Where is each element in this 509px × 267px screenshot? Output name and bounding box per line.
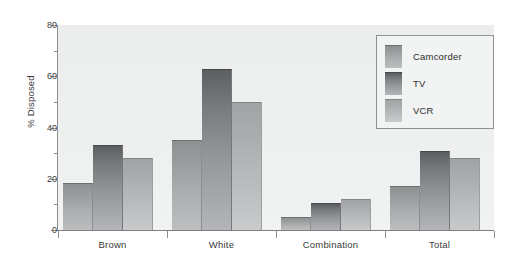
legend-swatch bbox=[385, 72, 402, 95]
y-tick-label: 20 bbox=[31, 174, 57, 184]
bar bbox=[281, 217, 311, 230]
legend-item: VCR bbox=[385, 98, 434, 122]
bar bbox=[450, 158, 480, 230]
y-tick-label: 60 bbox=[31, 71, 57, 81]
x-axis-category-label: Combination bbox=[303, 239, 359, 250]
x-axis-category-label: Brown bbox=[99, 239, 127, 250]
legend-label: TV bbox=[413, 78, 426, 89]
legend-swatch bbox=[385, 45, 402, 68]
bar bbox=[390, 186, 420, 230]
bar bbox=[311, 203, 341, 230]
legend-item: TV bbox=[385, 71, 426, 95]
bar bbox=[341, 199, 371, 230]
bar bbox=[93, 145, 123, 230]
legend: CamcorderTVVCR bbox=[376, 35, 494, 129]
x-tick bbox=[58, 231, 59, 238]
legend-label: VCR bbox=[413, 105, 434, 116]
legend-item: Camcorder bbox=[385, 44, 462, 68]
y-tick-label: 40 bbox=[31, 123, 57, 133]
y-axis-ticks: 020406080 bbox=[0, 0, 57, 267]
x-tick bbox=[494, 231, 495, 238]
bar bbox=[420, 151, 450, 230]
bar bbox=[202, 69, 232, 230]
x-axis-category-label: Total bbox=[429, 239, 450, 250]
bar bbox=[172, 140, 202, 230]
bar bbox=[123, 158, 153, 230]
x-axis-category-label: White bbox=[209, 239, 234, 250]
x-tick bbox=[385, 231, 386, 238]
bar bbox=[232, 102, 262, 230]
bar-chart: % Disposed 020406080 BrownWhiteCombinati… bbox=[0, 0, 509, 267]
x-tick bbox=[276, 231, 277, 238]
legend-label: Camcorder bbox=[413, 51, 462, 62]
bar bbox=[63, 183, 93, 230]
y-tick-label: 80 bbox=[31, 20, 57, 30]
y-tick-label: 0 bbox=[31, 225, 57, 235]
legend-swatch bbox=[385, 99, 402, 122]
x-tick bbox=[167, 231, 168, 238]
